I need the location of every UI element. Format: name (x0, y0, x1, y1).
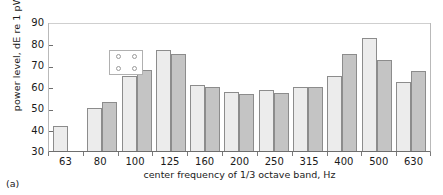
y-tick-label: 50 (31, 104, 44, 114)
bar-63-series-1 (53, 126, 68, 151)
bar-315-series-2 (308, 87, 323, 152)
y-tick-mark (49, 131, 53, 132)
bar-group-250 (257, 24, 291, 151)
x-tick-label-315: 315 (292, 155, 327, 169)
x-tick-label-200: 200 (222, 155, 257, 169)
y-tick-label: 70 (31, 61, 44, 71)
bar-80-series-1 (87, 108, 102, 151)
x-tick-label-160: 160 (187, 155, 222, 169)
x-tick-label-100: 100 (118, 155, 153, 169)
bar-400-series-2 (342, 54, 357, 151)
x-tick-label-125: 125 (152, 155, 187, 169)
bar-125-series-2 (171, 54, 186, 151)
bar-200-series-2 (239, 94, 254, 151)
y-tick-mark (49, 88, 53, 89)
bar-group-63 (51, 24, 85, 151)
bar-100-series-1 (122, 76, 137, 151)
y-tick-label: 40 (31, 126, 44, 136)
x-axis-tick-labels: 6380100125160200250315400500630 (48, 155, 431, 169)
legend-circle-icon (116, 66, 121, 71)
x-tick-label-400: 400 (327, 155, 362, 169)
bar-group-160 (188, 24, 222, 151)
y-tick-label: 80 (31, 40, 44, 50)
x-tick-label-80: 80 (83, 155, 118, 169)
y-tick-label: 90 (31, 18, 44, 28)
figure-caption: (a) (6, 178, 19, 189)
bar-100-series-2 (137, 70, 152, 151)
bar-500-series-2 (377, 60, 392, 151)
bar-group-80 (85, 24, 119, 151)
bar-400-series-1 (327, 76, 342, 151)
x-axis-title: center frequency of 1/3 octave band, Hz (48, 169, 431, 180)
bar-80-series-2 (102, 102, 117, 151)
figure-a: power level, dE re 1 pW 30405060708090 6… (0, 0, 443, 195)
bar-160-series-1 (190, 85, 205, 151)
bar-500-series-1 (362, 38, 377, 151)
bar-160-series-2 (205, 87, 220, 152)
bar-630-series-2 (411, 71, 426, 151)
bar-250-series-2 (274, 93, 289, 151)
bar-group-500 (359, 24, 393, 151)
y-tick-mark (49, 45, 53, 46)
y-tick-label: 60 (31, 83, 44, 93)
legend-box (109, 50, 143, 75)
y-axis-tick-labels: 30405060708090 (26, 23, 44, 152)
bar-315-series-1 (293, 87, 308, 152)
x-tick-label-63: 63 (48, 155, 83, 169)
y-tick-mark (49, 110, 53, 111)
bar-630-series-1 (396, 82, 411, 151)
y-axis-title: power level, dE re 1 pW (11, 0, 22, 124)
bar-250-series-1 (259, 90, 274, 151)
bar-group-315 (291, 24, 325, 151)
bar-200-series-1 (224, 92, 239, 151)
x-tick-label-250: 250 (257, 155, 292, 169)
bar-group-630 (394, 24, 428, 151)
plot-area (48, 23, 431, 152)
y-tick-mark (49, 67, 53, 68)
x-tick-label-630: 630 (396, 155, 431, 169)
bar-125-series-1 (156, 50, 171, 151)
x-tick-label-500: 500 (361, 155, 396, 169)
bar-group-100 (120, 24, 154, 151)
y-tick-label: 30 (31, 147, 44, 157)
bar-groups (49, 24, 430, 151)
bar-group-200 (222, 24, 256, 151)
bar-group-125 (154, 24, 188, 151)
legend-circle-icon (116, 54, 121, 59)
bar-group-400 (325, 24, 359, 151)
legend-circle-icon (132, 54, 137, 59)
legend-circle-icon (132, 66, 137, 71)
